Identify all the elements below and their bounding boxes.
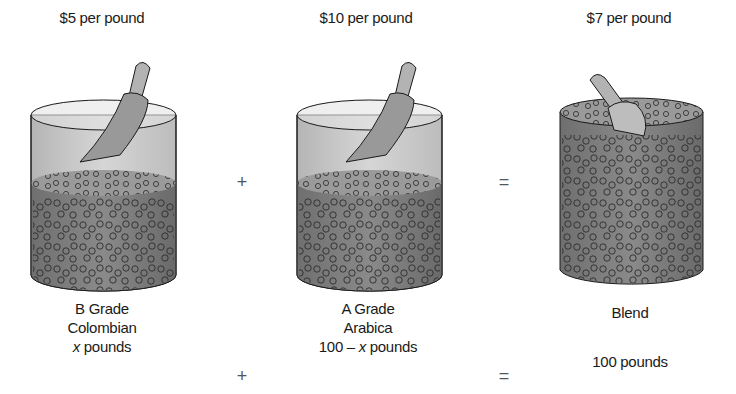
grade-text: B Grade [67,299,136,318]
plus-operator-bottom: + [237,366,248,387]
price-label-blend: $7 per pound [587,8,672,27]
blend-name-label: Blend [612,303,649,322]
price-label-colombian: $5 per pound [60,8,145,27]
variety-text: Colombian [67,318,136,337]
quantity-text: x pounds [67,337,136,356]
equals-operator-bottom: = [499,366,510,387]
plus-operator: + [237,172,248,193]
grade-text: A Grade [319,299,417,318]
equals-operator: = [499,172,510,193]
colombian-label: B Grade Colombian x pounds [67,299,136,356]
price-label-arabica: $10 per pound [320,8,413,27]
quantity-text: 100 – x pounds [319,337,417,356]
blend-quantity-label: 100 pounds [592,352,667,371]
arabica-label: A Grade Arabica 100 – x pounds [319,299,417,356]
colombian-container [31,62,176,291]
blend-container [560,74,703,284]
variety-text: Arabica [319,318,417,337]
arabica-container [297,62,442,291]
